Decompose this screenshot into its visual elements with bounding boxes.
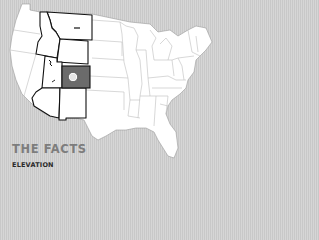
- state-new-mexico: [59, 88, 86, 120]
- facts-section-elevation: ELEVATION: [12, 161, 54, 169]
- facts-title: THE FACTS: [12, 142, 87, 156]
- state-wyoming: [57, 39, 88, 64]
- location-circle-inner: [70, 74, 76, 80]
- state-arizona: [32, 88, 60, 118]
